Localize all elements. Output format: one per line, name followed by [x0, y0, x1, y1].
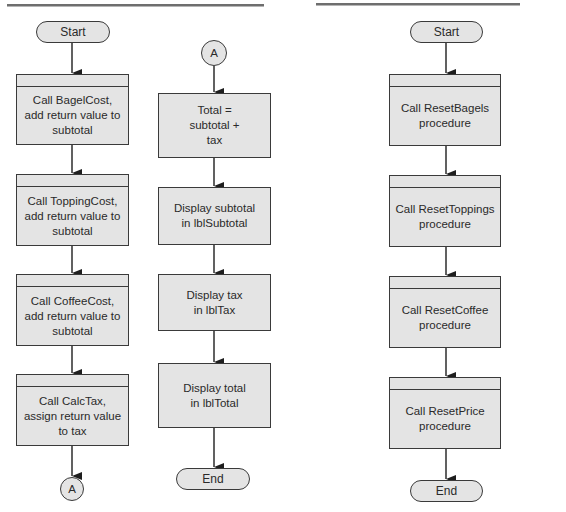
predefined-process-band	[17, 275, 128, 287]
process-label: Call CoffeeCost, add return value to sub…	[17, 287, 128, 345]
process-calctax: Call CalcTax, assign return value to tax	[16, 374, 129, 446]
start-terminal-right: Start	[410, 21, 483, 43]
offpage-connector-a-out: A	[60, 477, 84, 501]
end-terminal-left: End	[176, 468, 250, 490]
offpage-connector-a-in: A	[201, 40, 227, 66]
process-display-subtotal: Display subtotal in lblSubtotal	[158, 187, 271, 245]
process-label: Display subtotal in lblSubtotal	[159, 188, 270, 244]
process-label: Call ResetBagels procedure	[390, 87, 500, 145]
connector-label: A	[210, 47, 218, 59]
process-display-total: Display total in lblTotal	[158, 363, 271, 428]
process-label: Display total in lblTotal	[159, 364, 270, 427]
predefined-process-band	[17, 175, 128, 187]
process-resetcoffee: Call ResetCoffee procedure	[389, 276, 501, 348]
process-total: Total = subtotal + tax	[158, 93, 271, 158]
process-bagelcost: Call BagelCost, add return value to subt…	[16, 74, 129, 145]
predefined-process-band	[390, 277, 500, 289]
start-label: Start	[434, 25, 459, 39]
process-label: Display tax in lblTax	[159, 275, 270, 330]
top-rule-right	[316, 3, 520, 6]
process-label: Call BagelCost, add return value to subt…	[17, 87, 128, 144]
process-resetprice: Call ResetPrice procedure	[389, 377, 501, 449]
process-label: Call ToppingCost, add return value to su…	[17, 187, 128, 245]
end-label: End	[436, 484, 457, 498]
process-label: Call ResetPrice procedure	[390, 390, 500, 448]
connector-label: A	[68, 483, 76, 495]
end-terminal-right: End	[410, 480, 483, 502]
process-label: Call ResetCoffee procedure	[390, 289, 500, 347]
process-resetbagels: Call ResetBagels procedure	[389, 74, 501, 146]
predefined-process-band	[17, 375, 128, 387]
end-label: End	[202, 472, 223, 486]
predefined-process-band	[390, 75, 500, 87]
process-label: Call CalcTax, assign return value to tax	[17, 387, 128, 445]
predefined-process-band	[17, 75, 128, 87]
start-terminal-left: Start	[36, 21, 110, 43]
process-resettoppings: Call ResetToppings procedure	[389, 175, 501, 247]
process-display-tax: Display tax in lblTax	[158, 274, 271, 331]
flowchart-figure: Start Call BagelCost, add return value t…	[0, 0, 566, 512]
predefined-process-band	[390, 176, 500, 188]
process-coffeecost: Call CoffeeCost, add return value to sub…	[16, 274, 129, 346]
process-label: Total = subtotal + tax	[159, 94, 270, 157]
process-toppingcost: Call ToppingCost, add return value to su…	[16, 174, 129, 246]
predefined-process-band	[390, 378, 500, 390]
process-label: Call ResetToppings procedure	[390, 188, 500, 246]
top-rule-left	[7, 4, 264, 7]
start-label: Start	[60, 25, 85, 39]
